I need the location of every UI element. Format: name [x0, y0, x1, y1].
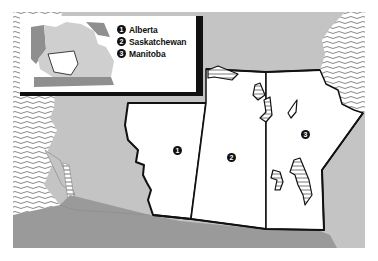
number-badge-icon: 2	[117, 37, 126, 46]
legend-label: Saskatchewan	[129, 37, 186, 47]
legend-item-manitoba: 3 Manitoba	[117, 48, 186, 59]
legend-item-saskatchewan: 2 Saskatchewan	[117, 36, 186, 47]
legend-list: 1 Alberta 2 Saskatchewan 3 Manitoba	[117, 24, 186, 60]
legend-label: Alberta	[129, 25, 158, 35]
legend-panel: 1 Alberta 2 Saskatchewan 3 Manitoba	[20, 16, 196, 92]
marker-manitoba[interactable]: 3	[301, 130, 310, 139]
canada-inset-map	[26, 19, 121, 91]
marker-saskatchewan[interactable]: 2	[227, 153, 236, 162]
number-badge-icon: 1	[117, 25, 126, 34]
legend-label: Manitoba	[129, 49, 166, 59]
legend-item-alberta: 1 Alberta	[117, 24, 186, 35]
number-badge-icon: 3	[117, 49, 126, 58]
marker-alberta[interactable]: 1	[173, 146, 182, 155]
